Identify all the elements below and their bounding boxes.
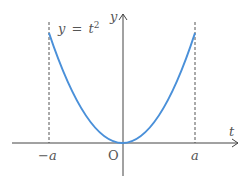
t-axis-label: t xyxy=(229,124,235,139)
y-axis-label: y xyxy=(109,9,118,24)
parabola-curve xyxy=(49,33,195,143)
neg-a-label: −a xyxy=(38,148,57,163)
pos-a-label: a xyxy=(191,148,199,163)
parabola-diagram: y = t2 y t O −a a xyxy=(0,0,249,182)
equation-label: y = t2 xyxy=(57,20,100,36)
origin-label: O xyxy=(108,148,119,163)
